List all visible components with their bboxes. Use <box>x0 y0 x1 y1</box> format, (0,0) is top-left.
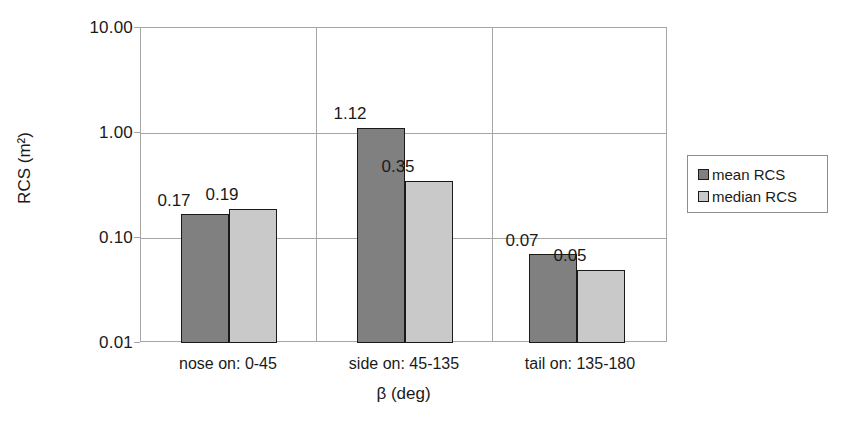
bar-value-label-median-side-on: 0.35 <box>364 158 432 175</box>
bar-mean-tail-on[interactable] <box>529 254 577 343</box>
x-category-label-tail-on: tail on: 135-180 <box>492 355 668 373</box>
bar-median-side-on[interactable] <box>405 181 453 343</box>
bar-value-label-median-tail-on: 0.05 <box>536 247 604 264</box>
legend-item-mean-rcs[interactable]: mean RCS <box>698 163 827 185</box>
y-tick-label-0.01: 0.01 <box>13 334 133 351</box>
bar-mean-nose-on[interactable] <box>181 214 229 343</box>
legend-item-median-rcs[interactable]: median RCS <box>698 185 827 207</box>
bar-value-label-mean-side-on: 1.12 <box>316 105 384 122</box>
legend: mean RCS median RCS <box>687 155 828 213</box>
rcs-bar-chart: 10.00 1.00 0.10 0.01 RCS (m²) 0.17 0.19 <box>0 0 856 424</box>
bar-value-label-median-nose-on: 0.19 <box>188 186 256 203</box>
x-category-label-side-on: side on: 45-135 <box>316 355 492 373</box>
legend-swatch-icon-median <box>698 191 709 202</box>
y-tick-label-10: 10.00 <box>13 19 133 36</box>
category-separator-1 <box>316 28 317 341</box>
legend-label-mean: mean RCS <box>712 167 785 182</box>
bar-median-nose-on[interactable] <box>229 209 277 343</box>
bar-median-tail-on[interactable] <box>577 270 625 343</box>
x-category-label-nose-on: nose on: 0-45 <box>140 355 316 373</box>
y-tick-mark-0.01 <box>134 342 140 343</box>
category-separator-2 <box>492 28 493 341</box>
y-axis-title: RCS (m²) <box>15 88 35 248</box>
x-axis-title: β (deg) <box>140 384 667 404</box>
legend-label-median: median RCS <box>712 189 797 204</box>
legend-swatch-icon-mean <box>698 169 709 180</box>
